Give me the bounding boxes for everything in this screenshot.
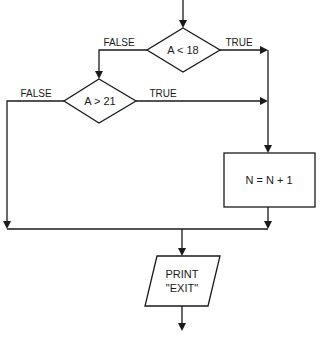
- arrowhead-icon: [3, 221, 11, 229]
- arrowhead-icon: [264, 145, 272, 153]
- decision-2-text: A > 21: [84, 95, 116, 107]
- edge-d2-true: TRUE: [136, 88, 268, 105]
- process-text: N = N + 1: [245, 174, 292, 186]
- decision-a-greater-than-21: A > 21: [64, 79, 136, 123]
- edge-label-false: FALSE: [103, 37, 134, 48]
- decision-a-less-than-18: A < 18: [147, 28, 220, 72]
- arrowhead-icon: [260, 97, 268, 105]
- edge-label-true: TRUE: [225, 37, 253, 48]
- edge-d2-false: FALSE: [3, 88, 64, 229]
- arrowhead-icon: [179, 20, 187, 28]
- arrowhead-icon: [264, 221, 272, 229]
- arrowhead-icon: [260, 46, 268, 54]
- output-line-2: "EXIT": [166, 282, 198, 294]
- edge-label-true: TRUE: [149, 88, 177, 99]
- process-increment-n: N = N + 1: [224, 153, 315, 207]
- edge-label-false: FALSE: [20, 88, 51, 99]
- entry-arrow: [179, 0, 187, 28]
- merge-line: [7, 229, 268, 256]
- edge-process-out: [264, 207, 272, 229]
- arrowhead-icon: [178, 323, 186, 331]
- arrowhead-icon: [178, 248, 186, 256]
- edge-d1-true: TRUE: [220, 37, 268, 54]
- edge-d1-false: FALSE: [95, 37, 147, 79]
- output-print-exit: PRINT "EXIT": [145, 256, 220, 306]
- exit-arrow: [178, 306, 186, 331]
- decision-1-text: A < 18: [167, 44, 199, 56]
- flowchart: A < 18 FALSE TRUE A > 21 FALSE TRUE N = …: [0, 0, 320, 338]
- output-line-1: PRINT: [166, 268, 199, 280]
- arrowhead-icon: [95, 71, 103, 79]
